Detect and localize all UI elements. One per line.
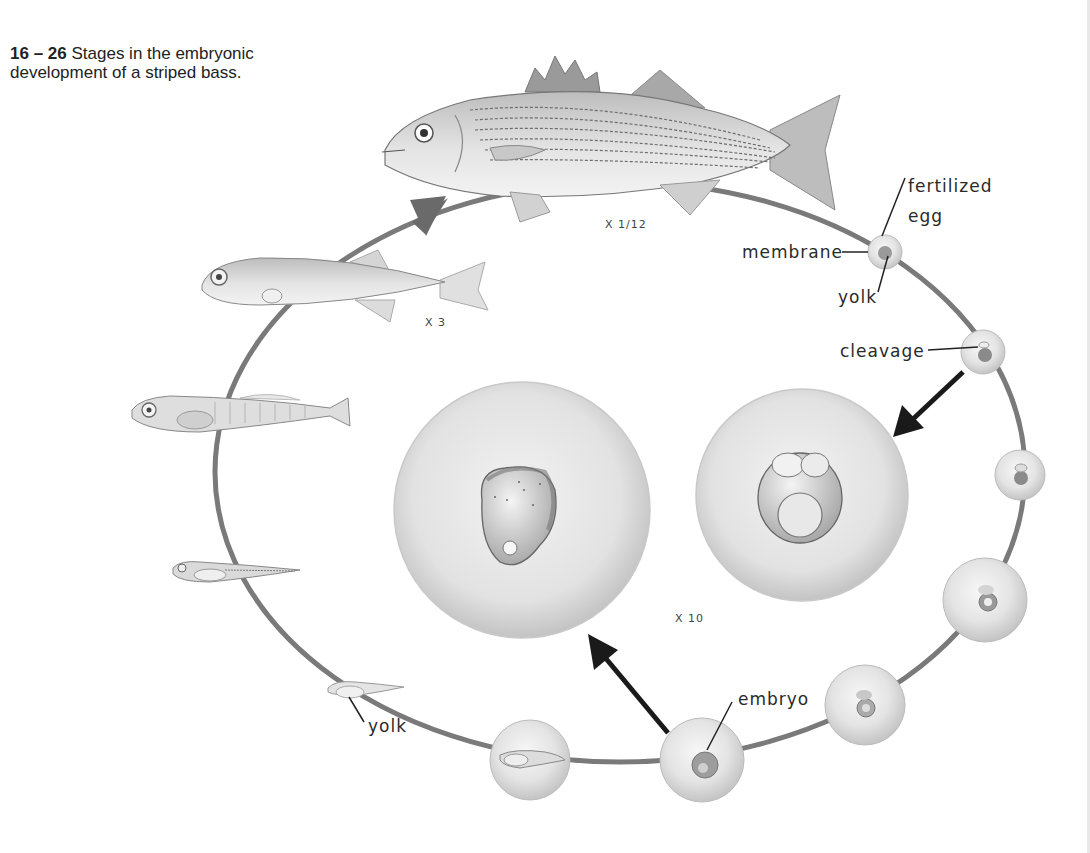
scale-eggs: X 10: [675, 612, 704, 625]
egg-fertilized: [868, 235, 902, 269]
label-cleavage: cleavage: [840, 341, 925, 361]
yolk-larva-pointer: [349, 697, 364, 722]
adult-striped-bass: [382, 56, 840, 222]
label-yolk-larva: yolk: [368, 716, 407, 736]
egg-embryo-enlarged: [394, 382, 650, 638]
larva: [173, 562, 300, 582]
label-yolk-egg: yolk: [838, 287, 877, 307]
label-membrane: membrane: [742, 242, 843, 262]
label-egg: egg: [908, 206, 943, 226]
arrow-to-embryo-enlarged-icon: [588, 634, 668, 733]
egg-gastrula: [943, 558, 1027, 642]
life-cycle-diagram: X 1/12 X 3 yolk: [0, 0, 1090, 853]
post-larva: [132, 394, 350, 432]
egg-embryo-forming: [825, 665, 905, 745]
egg-embryo: [660, 718, 744, 802]
fertilized-egg-pointer: [882, 178, 905, 236]
arrow-to-cleavage-enlarged-icon: [893, 372, 963, 437]
egg-cleavage: [961, 330, 1005, 374]
egg-blastula: [995, 450, 1045, 500]
arrow-to-adult-icon: [410, 196, 448, 236]
label-fertilized: fertilized: [908, 176, 992, 196]
scale-juvenile: X 3: [425, 316, 446, 329]
egg-hatching: [490, 720, 570, 800]
egg-cleavage-enlarged: [696, 389, 908, 601]
label-embryo: embryo: [738, 689, 809, 709]
scale-adult: X 1/12: [605, 218, 647, 231]
